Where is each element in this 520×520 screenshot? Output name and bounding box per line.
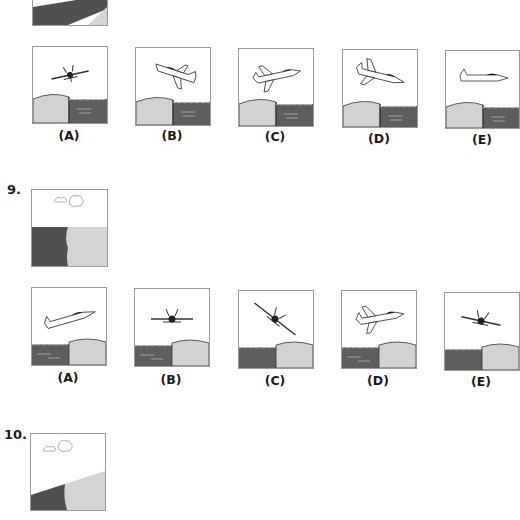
q8-option-b-image[interactable] — [135, 47, 211, 126]
q9-option-e-label: (E) — [461, 374, 501, 389]
q9-option-b-image[interactable] — [134, 288, 210, 367]
q9-cockpit-view — [31, 189, 108, 267]
aircraft-icon — [43, 303, 96, 329]
q10-cockpit-view — [30, 433, 106, 511]
aircraft-icon — [50, 62, 90, 86]
q9-number: 9. — [7, 182, 21, 197]
q8-option-e-image[interactable] — [445, 50, 520, 129]
q8-option-c-label: (C) — [255, 129, 295, 144]
q8-option-d-image[interactable] — [342, 49, 418, 128]
aircraft-icon — [151, 309, 193, 323]
q8-option-d-label: (D) — [359, 131, 399, 146]
q9-option-d-image[interactable] — [341, 290, 417, 369]
q9-option-a-image[interactable] — [31, 287, 107, 366]
q9-option-b-label: (B) — [151, 372, 191, 387]
q9-option-d-label: (D) — [358, 373, 398, 388]
q10-number: 10. — [4, 427, 27, 442]
q9-option-c-image[interactable] — [238, 290, 314, 369]
aircraft-icon — [353, 57, 408, 94]
q8-option-c-image[interactable] — [238, 48, 314, 127]
q8-cockpit-view — [32, 0, 108, 26]
q9-option-e-image[interactable] — [444, 292, 520, 371]
aircraft-icon — [461, 307, 503, 329]
aircraft-icon — [252, 295, 301, 338]
aircraft-icon — [251, 58, 303, 93]
q9-option-c-label: (C) — [255, 373, 295, 388]
q9-option-a-label: (A) — [48, 370, 88, 385]
q8-option-b-label: (B) — [152, 128, 192, 143]
aircraft-icon — [460, 69, 508, 81]
q8-option-e-label: (E) — [462, 132, 502, 147]
q8-option-a-label: (A) — [49, 128, 89, 143]
aircraft-icon — [354, 300, 406, 335]
aircraft-icon — [151, 56, 198, 92]
q8-option-a-image[interactable] — [32, 46, 108, 124]
